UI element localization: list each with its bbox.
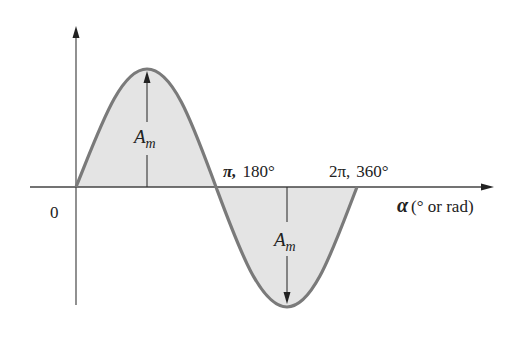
pi-label: π,180° bbox=[223, 162, 275, 181]
y-axis-arrow-icon bbox=[73, 26, 80, 38]
x-axis-arrow-icon bbox=[481, 184, 494, 191]
x-axis-label: α(° or rad) bbox=[397, 194, 474, 216]
positive-half-fill bbox=[76, 69, 216, 187]
origin-label: 0 bbox=[50, 203, 59, 222]
two-pi-label: 2π,360° bbox=[329, 162, 389, 181]
sine-wave-diagram: Am Am 0 π,180° 2π,360° α(° or rad) bbox=[0, 0, 524, 348]
